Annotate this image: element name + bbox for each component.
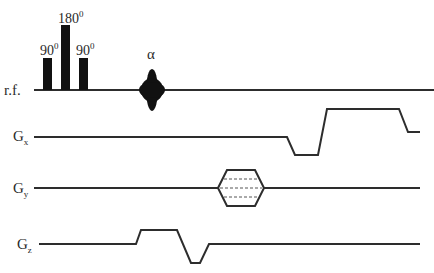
gx-channel: Gx: [13, 109, 420, 155]
gx-label: Gx: [13, 128, 29, 147]
rf-pulse-180: [61, 25, 70, 90]
pulse-label-180: 1800: [58, 9, 84, 26]
rf-channel: r.f. 900 1800 900 α: [4, 9, 434, 111]
gz-waveform: [39, 230, 420, 263]
rf-pulse-90-first: [43, 58, 52, 90]
gx-waveform: [34, 109, 420, 155]
rf-pulse-90-second: [79, 58, 88, 90]
pulse-sequence-diagram: r.f. 900 1800 900 α Gx Gy Gz: [0, 0, 434, 273]
rf-pulse-alpha: [139, 69, 165, 111]
gy-label: Gy: [13, 180, 29, 199]
gz-label: Gz: [17, 236, 32, 255]
pulse-label-90-first: 900: [40, 41, 59, 58]
pulse-label-alpha: α: [147, 46, 155, 62]
rf-label: r.f.: [4, 82, 21, 98]
pulse-label-90-second: 900: [76, 41, 95, 58]
gz-channel: Gz: [17, 230, 420, 263]
gy-channel: Gy: [13, 170, 420, 206]
